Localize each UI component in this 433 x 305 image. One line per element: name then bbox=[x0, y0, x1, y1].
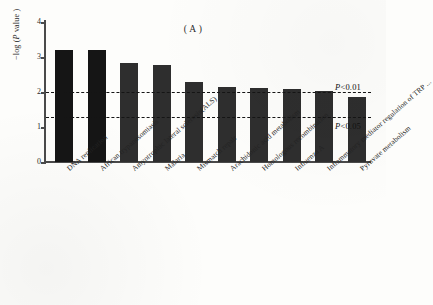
y-axis-title: −log (P value ) bbox=[12, 9, 21, 60]
threshold-label-p005-value: <0.05 bbox=[340, 121, 361, 131]
y-tick-label-1: 1 bbox=[29, 123, 41, 131]
y-axis-title-italic: P bbox=[12, 34, 21, 39]
y-tick-4 bbox=[41, 22, 46, 24]
threshold-label-p005: P<0.05 bbox=[335, 121, 361, 131]
threshold-label-p001: P<0.01 bbox=[335, 82, 361, 92]
y-tick-3 bbox=[41, 57, 46, 59]
y-tick-label-2: 2 bbox=[29, 88, 41, 96]
y-tick-label-3: 3 bbox=[29, 53, 41, 61]
threshold-label-p001-value: <0.01 bbox=[340, 82, 361, 92]
y-tick-0 bbox=[41, 162, 46, 164]
y-tick-1 bbox=[41, 127, 46, 129]
threshold-line-p001 bbox=[46, 92, 371, 93]
y-axis-title-suffix: value ) bbox=[12, 9, 21, 35]
y-axis-title-prefix: −log ( bbox=[12, 39, 21, 60]
bar-1 bbox=[55, 50, 73, 162]
y-tick-label-4: 4 bbox=[29, 18, 41, 26]
y-tick-label-0: 0 bbox=[29, 158, 41, 166]
